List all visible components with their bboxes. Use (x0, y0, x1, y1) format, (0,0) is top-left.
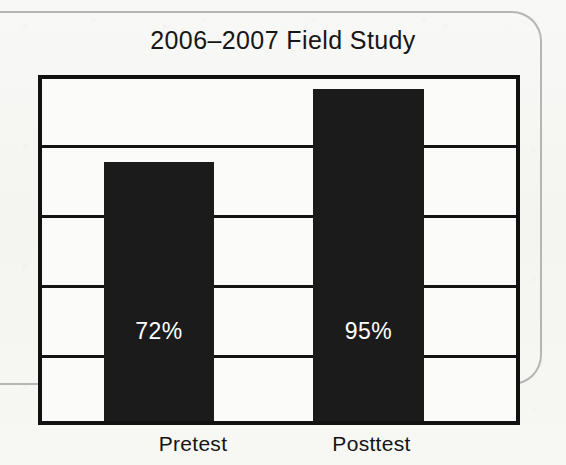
bar-value-posttest: 95% (313, 318, 424, 345)
category-label-pretest: Pretest (118, 432, 268, 456)
bar-pretest[interactable]: 72% (104, 162, 214, 421)
bar-posttest[interactable]: 95% (313, 89, 424, 421)
category-label-posttest: Posttest (294, 432, 449, 456)
plot-area: 72% 95% (38, 75, 520, 425)
bar-value-pretest: 72% (104, 318, 214, 345)
plot-inner: 72% 95% (42, 79, 516, 421)
gridline-1 (42, 145, 516, 148)
chart-title: 2006–2007 Field Study (0, 26, 566, 55)
